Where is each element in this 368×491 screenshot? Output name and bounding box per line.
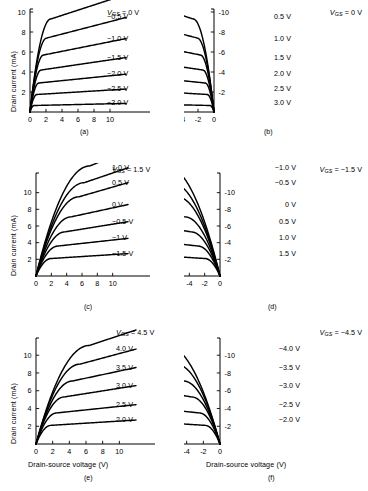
svg-text:8: 8 <box>22 28 26 37</box>
curve-label-c-6: −1.5 V <box>112 249 133 258</box>
curve-label-d-1: −1.0 V <box>275 163 296 172</box>
curve-label-a-4: −2.0 V <box>107 69 128 78</box>
svg-text:-2: -2 <box>225 422 231 431</box>
svg-text:-2: -2 <box>200 447 206 456</box>
curve-label-e-3: 3.0 V <box>116 381 133 390</box>
svg-text:6: 6 <box>76 115 80 124</box>
svg-text:-8: -8 <box>219 28 225 37</box>
curve-f-30V <box>184 386 220 444</box>
svg-text:4: 4 <box>60 115 64 124</box>
curve-label-f-2: −3.5 V <box>279 363 300 372</box>
vgs-symbol: VGS <box>330 8 343 17</box>
panel-b: 0-2-4-6-8-10-2-4-6-8-10VGS = 0 V0.5 V1.0… <box>184 0 368 164</box>
curve-b-30V <box>184 103 214 112</box>
curve-label-a-2: −1.0 V <box>107 34 128 43</box>
svg-text:-6: -6 <box>219 48 225 57</box>
panel-caption-d: (d) <box>268 303 277 310</box>
svg-text:4: 4 <box>28 404 32 413</box>
svg-text:2: 2 <box>44 115 48 124</box>
svg-text:8: 8 <box>95 279 99 288</box>
curve-label-f-5: −2.0 V <box>279 415 300 424</box>
svg-text:4: 4 <box>28 238 32 247</box>
curve-label-d-6: 1.5 V <box>279 249 296 258</box>
svg-text:-4: -4 <box>184 115 185 124</box>
svg-text:10: 10 <box>24 351 32 360</box>
curve-label-b-5: 2.5 V <box>274 84 291 93</box>
y-axis-title: Drain current (mA) <box>9 383 18 444</box>
panel-e: 0246810246810VGS = 4.5 V4.0 V3.5 V3.0 V2… <box>0 324 184 488</box>
svg-text:2: 2 <box>49 279 53 288</box>
vgs-symbol: VGS <box>116 328 129 337</box>
svg-text:-10: -10 <box>219 8 229 17</box>
vgs-symbol: VGS <box>320 328 333 337</box>
svg-text:2: 2 <box>28 255 32 264</box>
panel-d: 0-2-4-6-8-10-2-4-6-8-10VGS = −1.5 V−1.0 … <box>184 163 368 327</box>
panel-caption-a: (a) <box>80 128 89 135</box>
svg-text:10: 10 <box>115 447 123 456</box>
curve-label-a-1: −0.5 V <box>107 12 128 21</box>
curve-label-e-1: 4.0 V <box>116 344 133 353</box>
panel-f: 0-2-4-6-8-10-2-4-6-8-10VGS = −4.5 V−4.0 … <box>184 324 368 488</box>
svg-text:2: 2 <box>22 88 26 97</box>
curve-label-d-5: 1.0 V <box>279 233 296 242</box>
svg-text:0: 0 <box>218 279 222 288</box>
curve-b-15V <box>184 58 214 112</box>
svg-text:4: 4 <box>22 68 26 77</box>
svg-text:6: 6 <box>28 222 32 231</box>
panel-c: 0246810246810VGS = 1.5 V1.0 V0.5 V0 V−0.… <box>0 163 184 327</box>
y-axis-title: Drain current (mA) <box>9 51 18 112</box>
curve-label-e-4: 2.5 V <box>116 400 133 409</box>
curve-label-b-3: 1.5 V <box>274 53 291 62</box>
panel-caption-b: (b) <box>264 128 273 135</box>
curve-e-25V <box>36 405 136 444</box>
curve-label-a-6: −3.0 V <box>107 98 128 107</box>
svg-text:-4: -4 <box>225 238 231 247</box>
curve-label-b-6: 3.0 V <box>274 98 291 107</box>
curve-label-c-1: 1.0 V <box>112 163 129 172</box>
curve-label-e-0: VGS = 4.5 V <box>116 328 154 337</box>
svg-text:10: 10 <box>109 279 117 288</box>
svg-text:0: 0 <box>28 115 32 124</box>
vgs-value: = 0 V <box>343 8 362 17</box>
curve-label-d-3: 0 V <box>285 200 296 209</box>
curve-label-b-1: 0.5 V <box>274 12 291 21</box>
svg-text:10: 10 <box>18 8 26 17</box>
curve-label-d-0: VGS = −1.5 V <box>320 165 363 174</box>
svg-text:-8: -8 <box>225 369 231 378</box>
panel-a: 0246810246810VGS = 0 V−0.5 V−1.0 V−1.5 V… <box>0 0 184 164</box>
svg-text:-6: -6 <box>225 222 231 231</box>
vgs-value: = −1.5 V <box>332 165 362 174</box>
svg-text:0: 0 <box>34 279 38 288</box>
x-axis-title: Drain-source voltage (V) <box>206 460 286 469</box>
svg-text:2: 2 <box>28 422 32 431</box>
curve-label-a-5: −2.5 V <box>107 84 128 93</box>
svg-text:6: 6 <box>28 386 32 395</box>
svg-text:-10: -10 <box>225 188 235 197</box>
svg-text:-2: -2 <box>219 88 225 97</box>
curve-label-b-2: 1.0 V <box>274 34 291 43</box>
panel-caption-f: (f) <box>268 474 275 481</box>
svg-text:4: 4 <box>67 447 71 456</box>
svg-text:10: 10 <box>106 115 114 124</box>
curve-label-b-4: 2.0 V <box>274 69 291 78</box>
svg-text:10: 10 <box>24 188 32 197</box>
curve-label-e-5: 2.0 V <box>116 415 133 424</box>
svg-text:-2: -2 <box>225 255 231 264</box>
svg-text:0: 0 <box>212 115 216 124</box>
curve-label-d-4: 0.5 V <box>279 217 296 226</box>
svg-text:-4: -4 <box>186 279 192 288</box>
svg-text:-2: -2 <box>195 115 201 124</box>
vgs-value: = 4.5 V <box>129 328 154 337</box>
svg-text:-2: -2 <box>201 279 207 288</box>
vgs-symbol: VGS <box>320 165 333 174</box>
curve-label-c-4: −0.5 V <box>112 217 133 226</box>
curve-label-f-4: −2.5 V <box>279 400 300 409</box>
panel-caption-e: (e) <box>84 474 93 481</box>
svg-text:4: 4 <box>65 279 69 288</box>
svg-text:-6: -6 <box>225 386 231 395</box>
y-axis-title: Drain current (mA) <box>9 215 18 276</box>
curve-label-b-0: VGS = 0 V <box>330 8 362 17</box>
svg-text:0: 0 <box>34 447 38 456</box>
curve-label-c-2: 0.5 V <box>112 178 129 187</box>
svg-text:-4: -4 <box>219 68 225 77</box>
